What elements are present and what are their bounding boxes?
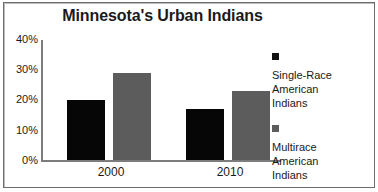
y-axis-tick-labels: 40% 30% 20% 10% 0%: [2, 33, 38, 169]
plot-area: [41, 40, 281, 162]
x-axis-tick-labels: 2000 2010: [41, 165, 281, 183]
legend-label-line: Single-Race: [272, 68, 372, 82]
bar-2000-multirace[interactable]: [113, 73, 151, 160]
y-axis-line: [41, 40, 43, 161]
chart-legend: Single-Race American Indians Multirace A…: [272, 50, 372, 192]
y-tick-label: 40%: [16, 33, 38, 45]
legend-label-line: Indians: [272, 96, 372, 110]
bar-2000-single-race[interactable]: [67, 100, 105, 160]
x-tick-label-2000: 2000: [69, 165, 153, 179]
legend-label-line: American: [272, 154, 372, 168]
bar-2010-single-race[interactable]: [186, 109, 224, 160]
legend-label-multirace: Multirace American Indians: [272, 140, 372, 182]
y-tick-label: 0%: [22, 154, 38, 166]
x-tick-label-2010: 2010: [188, 165, 272, 179]
legend-label-line: American: [272, 82, 372, 96]
legend-label-single-race: Single-Race American Indians: [272, 68, 372, 110]
chart-screenshot: Minnesota's Urban Indians 40% 30% 20% 10…: [0, 0, 378, 192]
legend-entry-single-race[interactable]: Single-Race American Indians: [272, 50, 372, 110]
bar-2010-multirace[interactable]: [232, 91, 270, 160]
x-axis-line: [41, 160, 281, 162]
chart-title: Minnesota's Urban Indians: [40, 7, 285, 25]
black-square-swatch-icon: [272, 53, 279, 60]
y-tick-label: 20%: [16, 93, 38, 105]
gray-square-swatch-icon: [272, 125, 279, 132]
legend-label-line: Multirace: [272, 140, 372, 154]
y-tick-label: 10%: [16, 124, 38, 136]
legend-label-line: Indians: [272, 168, 372, 182]
y-tick-label: 30%: [16, 63, 38, 75]
legend-entry-multirace[interactable]: Multirace American Indians: [272, 122, 372, 182]
